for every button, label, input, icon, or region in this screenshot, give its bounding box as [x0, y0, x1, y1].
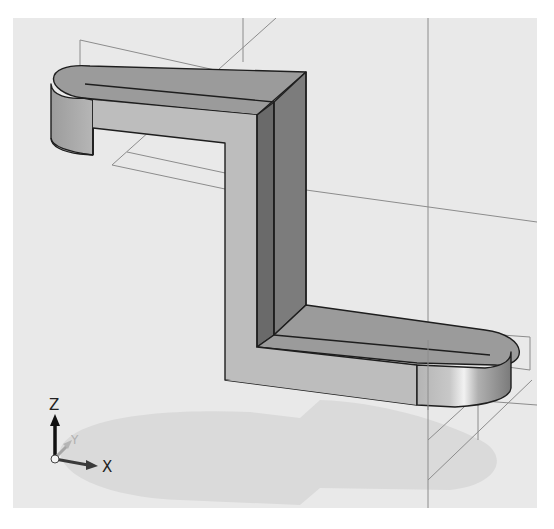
3d-viewport[interactable]: Z Y X: [13, 18, 537, 508]
web-side-face-outer: [274, 72, 306, 335]
model-scene[interactable]: Z Y X: [13, 18, 537, 508]
y-axis-label: Y: [70, 433, 79, 447]
z-axis-label: Z: [49, 396, 59, 414]
ground-shadow: [60, 400, 497, 505]
z-axis-arrow: [50, 414, 60, 457]
x-axis-label: X: [102, 458, 112, 476]
triad-origin: [51, 455, 59, 463]
web-side-face-inner: [257, 102, 274, 347]
z-bracket-model[interactable]: [51, 66, 519, 407]
